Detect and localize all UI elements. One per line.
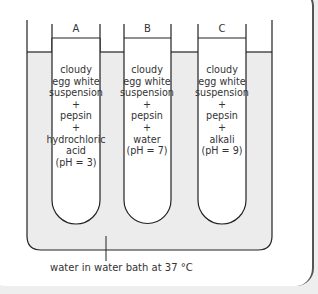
tube-a-line: + (46, 122, 106, 134)
tube-c-line: alkali (192, 134, 252, 146)
tube-a-line: pepsin (46, 110, 106, 122)
tube-c-label: C (198, 23, 246, 35)
tube-b-line: water (117, 134, 177, 146)
tube-a-line: suspension (46, 87, 106, 99)
tube-c-contents: cloudy egg white suspension + pepsin + a… (192, 64, 252, 157)
tube-b-contents: cloudy egg white suspension + pepsin + w… (117, 64, 177, 157)
tube-b-line: (pH = 7) (117, 145, 177, 157)
tube-a-line: cloudy (46, 64, 106, 76)
tube-a-label: A (52, 23, 100, 35)
tube-c-line: egg white (192, 76, 252, 88)
tube-c-line: + (192, 122, 252, 134)
tube-c-line: pepsin (192, 110, 252, 122)
tube-c-line: suspension (192, 87, 252, 99)
tube-b-line: suspension (117, 87, 177, 99)
tube-b-line: + (117, 122, 177, 134)
tube-c-line: (pH = 9) (192, 145, 252, 157)
tube-a-line: acid (46, 145, 106, 157)
tube-a-line: hydrochloric (46, 134, 106, 146)
water-bath-label: water in water bath at 37 °C (50, 262, 193, 273)
tube-a-line: (pH = 3) (46, 157, 106, 169)
tube-c-line: + (192, 99, 252, 111)
tube-b-line: cloudy (117, 64, 177, 76)
tube-a-contents: cloudy egg white suspension + pepsin + h… (46, 64, 106, 168)
tube-b-label: B (124, 23, 171, 35)
tube-b-line: pepsin (117, 110, 177, 122)
tube-a-line: egg white (46, 76, 106, 88)
tube-b-line: + (117, 99, 177, 111)
tube-c-line: cloudy (192, 64, 252, 76)
tube-b-line: egg white (117, 76, 177, 88)
tube-a-line: + (46, 99, 106, 111)
